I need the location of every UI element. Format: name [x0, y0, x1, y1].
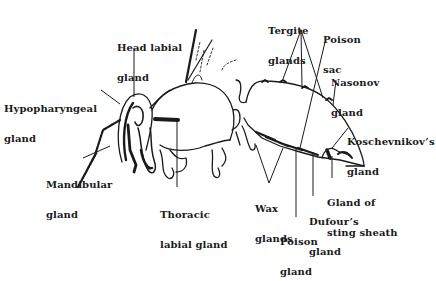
label-line: Hypopharyngeal: [4, 104, 97, 114]
label-hypopharyngeal-gland: Hypopharyngeal gland: [4, 84, 97, 164]
label-mandibular-gland: Mandibular gland: [46, 160, 112, 240]
label-line: Poison: [323, 35, 361, 45]
label-line: Wax: [255, 204, 293, 214]
label-line: Nasonov: [331, 78, 379, 88]
label-line: gland: [117, 73, 182, 83]
label-line: gland: [347, 167, 435, 177]
label-line: Koschevnikov’s: [347, 137, 435, 147]
label-line: gland: [46, 210, 112, 220]
label-line: Head labial: [117, 43, 182, 53]
label-line: Tergite: [268, 26, 308, 36]
label-head-labial-gland: Head labial gland: [117, 23, 182, 103]
label-line: gland: [280, 267, 318, 277]
label-line: labial gland: [160, 240, 228, 250]
label-line: Poison: [280, 237, 318, 247]
label-line: gland: [4, 134, 97, 144]
label-tergite-glands: Tergite glands: [268, 6, 308, 86]
head-outline: [118, 94, 152, 162]
label-line: glands: [268, 56, 308, 66]
label-line: Mandibular: [46, 180, 112, 190]
label-poison-gland: Poison gland: [280, 217, 318, 281]
leg-middle: [212, 150, 220, 178]
label-thoracic-labial-gland: Thoracic labial gland: [160, 190, 228, 270]
leg-front: [160, 150, 174, 178]
wing-rear: [222, 60, 236, 70]
label-line: Thoracic: [160, 210, 228, 220]
